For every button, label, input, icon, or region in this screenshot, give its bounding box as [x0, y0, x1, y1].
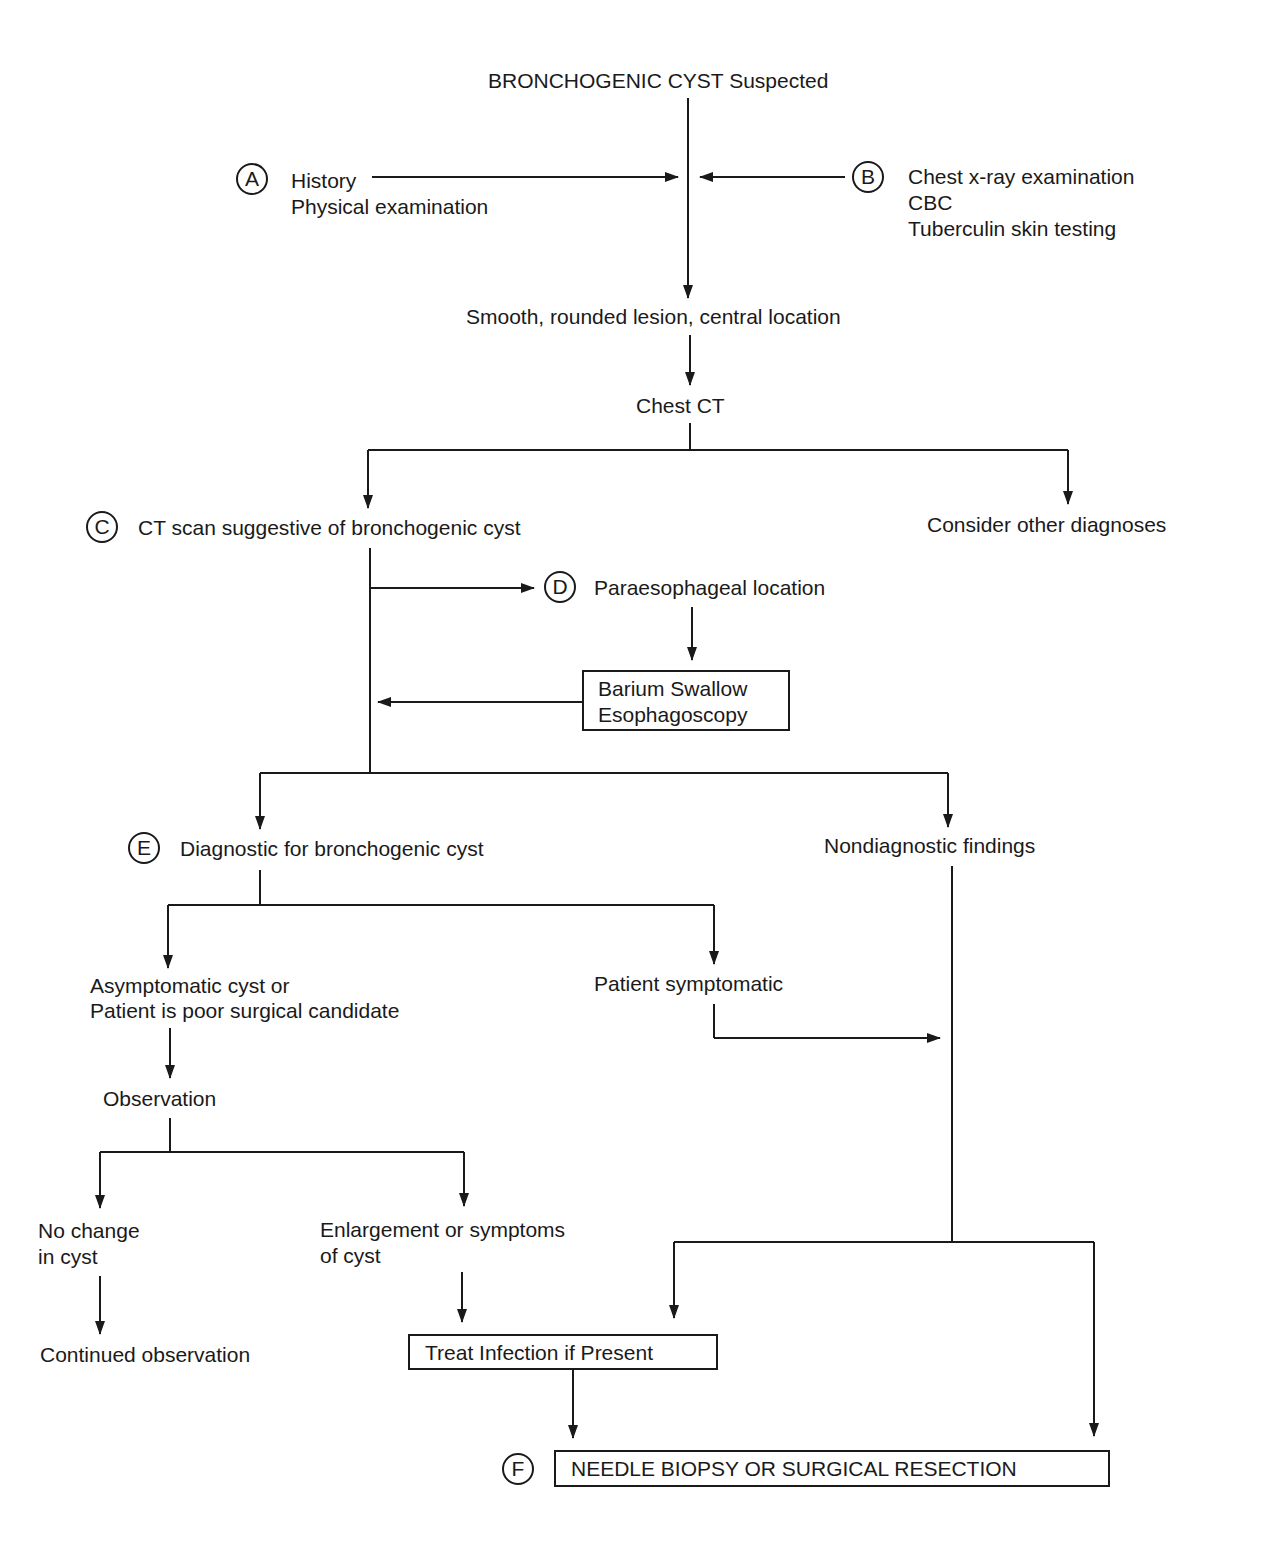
poor-candidate-text: Patient is poor surgical candidate: [90, 998, 399, 1024]
tuberculin-text: Tuberculin skin testing: [908, 216, 1116, 242]
symptomatic-node: Patient symptomatic: [594, 971, 783, 997]
chest-xray-text: Chest x-ray examination: [908, 164, 1134, 190]
start-node: BRONCHOGENIC CYST Suspected: [488, 68, 828, 94]
cbc-text: CBC: [908, 190, 952, 216]
asymptomatic-text: Asymptomatic cyst or: [90, 973, 290, 999]
barium-box: Barium Swallow Esophagoscopy: [582, 670, 790, 731]
nondiagnostic-node: Nondiagnostic findings: [824, 833, 1035, 859]
badge-f: F: [502, 1453, 534, 1485]
physical-exam-text: Physical examination: [291, 194, 488, 220]
continued-observation-node: Continued observation: [40, 1342, 250, 1368]
no-change-text: No change: [38, 1218, 140, 1244]
final-text: NEEDLE BIOPSY OR SURGICAL RESECTION: [571, 1457, 1017, 1480]
treat-infection-text: Treat Infection if Present: [425, 1341, 653, 1364]
history-text: History: [291, 168, 356, 194]
diagnostic-node: Diagnostic for bronchogenic cyst: [180, 836, 484, 862]
badge-d: D: [544, 571, 576, 603]
badge-b: B: [852, 161, 884, 193]
chest-ct-node: Chest CT: [636, 393, 725, 419]
smooth-lesion-node: Smooth, rounded lesion, central location: [466, 304, 841, 330]
barium-text: Barium Swallow: [598, 676, 788, 702]
paraesophageal-node: Paraesophageal location: [594, 575, 825, 601]
other-diagnoses-node: Consider other diagnoses: [927, 512, 1166, 538]
badge-c: C: [86, 511, 118, 543]
ct-suggestive-node: CT scan suggestive of bronchogenic cyst: [138, 515, 520, 541]
in-cyst-text: in cyst: [38, 1244, 98, 1270]
final-box: NEEDLE BIOPSY OR SURGICAL RESECTION: [554, 1450, 1110, 1487]
treat-infection-box: Treat Infection if Present: [408, 1334, 718, 1370]
badge-a: A: [236, 163, 268, 195]
badge-e: E: [128, 832, 160, 864]
observation-node: Observation: [103, 1086, 216, 1112]
esophagoscopy-text: Esophagoscopy: [598, 702, 788, 728]
enlargement-text: Enlargement or symptoms: [320, 1217, 565, 1243]
of-cyst-text: of cyst: [320, 1243, 381, 1269]
